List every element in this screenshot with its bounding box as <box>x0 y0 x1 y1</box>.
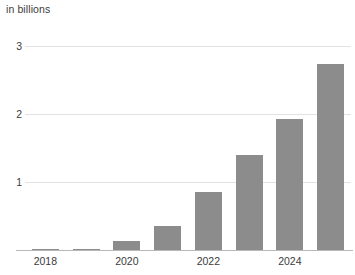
bar <box>236 155 263 250</box>
bar <box>154 226 181 250</box>
y-axis-tick-label: 1 <box>8 176 22 188</box>
bar <box>276 119 303 250</box>
bar-chart: in billions 123 2018202020222024 <box>0 0 355 275</box>
y-axis-tick-label: 2 <box>8 108 22 120</box>
x-axis-tick-label: 2020 <box>115 255 138 267</box>
bar <box>195 192 222 250</box>
bar <box>317 64 344 250</box>
y-axis-tick-label: 3 <box>8 40 22 52</box>
x-axis-tick-label: 2022 <box>197 255 220 267</box>
gridline <box>25 46 351 47</box>
x-axis-tick-label: 2024 <box>278 255 301 267</box>
x-axis-tick-label: 2018 <box>34 255 57 267</box>
plot-area: 123 2018202020222024 <box>0 0 355 275</box>
bar <box>113 241 140 250</box>
gridline <box>25 114 351 115</box>
x-axis-line <box>16 250 353 251</box>
